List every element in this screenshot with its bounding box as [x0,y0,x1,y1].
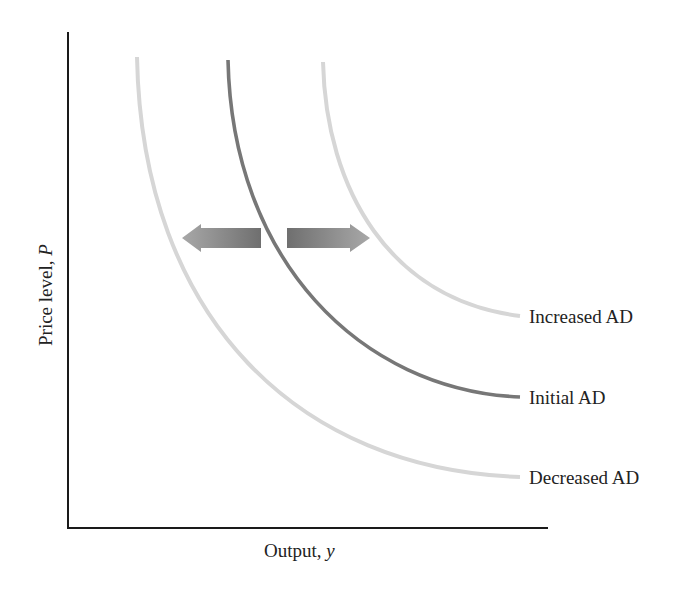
x-axis-variable: y [324,540,335,561]
arrow-right-icon [287,224,370,252]
x-axis-title: Output, y [264,540,335,561]
ad-shift-diagram: Increased AD Initial AD Decreased AD Out… [0,0,694,594]
y-axis-label: Price level, [35,256,56,346]
label-increased-ad: Increased AD [529,306,633,327]
y-axis-variable: P [35,244,56,257]
label-initial-ad: Initial AD [529,387,606,408]
x-axis-label: Output, [264,540,326,561]
label-decreased-ad: Decreased AD [529,467,639,488]
arrow-left-icon [182,224,261,252]
y-axis-title: Price level, P [35,244,56,346]
increased-ad-curve [323,62,520,316]
